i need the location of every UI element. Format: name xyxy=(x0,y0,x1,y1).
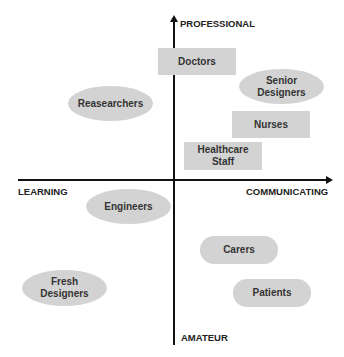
horizontal-axis xyxy=(18,179,328,181)
node-doctors: Doctors xyxy=(158,48,236,75)
axis-label-left: LEARNING xyxy=(18,186,68,197)
arrow-up-icon xyxy=(170,15,178,22)
axis-label-right: COMMUNICATING xyxy=(246,186,328,197)
node-healthcare-staff: Healthcare Staff xyxy=(184,142,262,170)
node-fresh-designers: Fresh Designers xyxy=(22,270,107,306)
axis-label-bottom: AMATEUR xyxy=(181,332,228,343)
arrow-right-icon xyxy=(326,176,333,184)
node-nurses: Nurses xyxy=(232,111,310,138)
axis-label-top: PROFESSIONAL xyxy=(180,18,255,29)
node-engineers: Engineers xyxy=(86,189,171,224)
node-patients: Patients xyxy=(233,279,311,307)
node-carers: Carers xyxy=(200,236,278,264)
node-senior-designers: Senior Designers xyxy=(239,69,324,104)
node-researchers: Reasearchers xyxy=(68,86,153,121)
